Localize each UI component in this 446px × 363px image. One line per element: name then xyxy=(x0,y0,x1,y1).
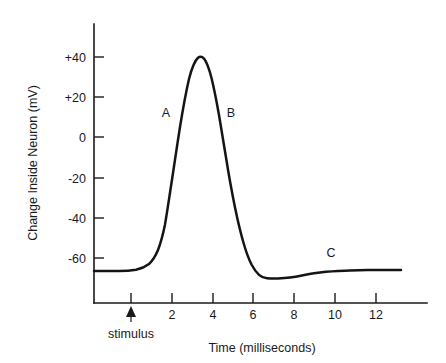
stimulus-marker-group: stimulus xyxy=(108,306,154,341)
y-tick-label-neg40: -40 xyxy=(68,212,86,226)
chart-canvas: +40 +20 0 -20 -40 -60 2 4 6 8 10 12 xyxy=(0,0,446,363)
annotation-label-c: C xyxy=(326,246,335,260)
annotation-label-b: B xyxy=(227,106,235,120)
y-tick-label-20: +20 xyxy=(65,91,86,105)
y-tick-label-40: +40 xyxy=(65,51,86,65)
x-axis-title: Time (milliseconds) xyxy=(208,341,315,355)
x-tick-label-12: 12 xyxy=(369,308,383,322)
x-tick-labels: 2 4 6 8 10 12 xyxy=(169,308,383,322)
y-axis-title: Change Inside Neuron (mV) xyxy=(26,85,40,241)
x-tick-label-8: 8 xyxy=(291,308,298,322)
stimulus-up-triangle-icon xyxy=(126,306,136,317)
x-tick-label-10: 10 xyxy=(328,308,342,322)
action-potential-figure: +40 +20 0 -20 -40 -60 2 4 6 8 10 12 xyxy=(0,0,446,363)
y-tick-marks xyxy=(94,57,104,258)
x-tick-marks xyxy=(131,293,376,303)
x-tick-label-4: 4 xyxy=(210,308,217,322)
y-tick-label-0: 0 xyxy=(79,131,86,145)
x-tick-label-2: 2 xyxy=(169,308,176,322)
action-potential-trace xyxy=(94,57,401,279)
x-tick-label-6: 6 xyxy=(250,308,257,322)
y-tick-label-neg20: -20 xyxy=(68,172,86,186)
annotation-label-a: A xyxy=(162,106,171,120)
y-tick-labels: +40 +20 0 -20 -40 -60 xyxy=(65,51,86,266)
y-tick-label-neg60: -60 xyxy=(68,252,86,266)
axes-group xyxy=(94,24,427,303)
stimulus-label: stimulus xyxy=(108,327,154,341)
phase-annotations: A B C xyxy=(162,106,336,260)
